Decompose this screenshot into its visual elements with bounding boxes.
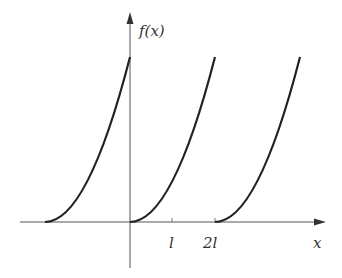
x-axis-arrow-icon bbox=[314, 219, 326, 226]
curve-period-2 bbox=[130, 57, 215, 222]
y-axis-arrow-icon bbox=[127, 12, 134, 24]
curve-period-1 bbox=[45, 57, 130, 222]
x-axis-label: x bbox=[313, 234, 322, 252]
tick-label-2l: 2l bbox=[202, 234, 218, 252]
y-axis-label: f(x) bbox=[138, 22, 165, 40]
function-diagram: f(x) x l 2l bbox=[0, 0, 342, 278]
tick-label-l: l bbox=[169, 234, 174, 252]
curve-period-3 bbox=[215, 57, 300, 222]
